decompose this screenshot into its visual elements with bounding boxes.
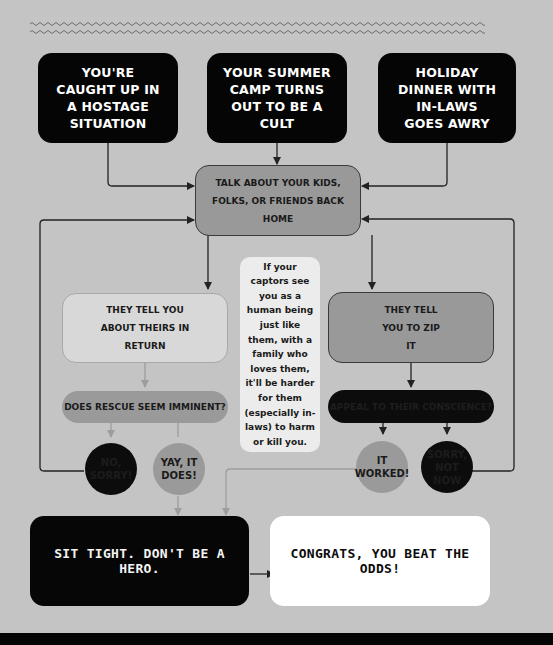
zip-it-label: THEY TELL YOU TO ZIP IT (329, 301, 493, 355)
zip-it-box: THEY TELL YOU TO ZIP IT (328, 292, 494, 363)
tip-note: If your captors see you as a human being… (240, 257, 320, 452)
start-cult-label: YOUR SUMMER CAMP TURNS OUT TO BE A CULT (207, 64, 347, 132)
wavy-divider (30, 20, 485, 36)
appeal-conscience-pill: APPEAL TO THEIR CONSCIENCE? (328, 390, 494, 423)
no-sorry-label: NO, SORRY! (84, 456, 138, 482)
sit-tight-label: SIT TIGHT. DON'T BE A HERO. (30, 546, 249, 576)
talk-about-family-box: TALK ABOUT YOUR KIDS, FOLKS, OR FRIENDS … (195, 165, 361, 236)
they-tell-theirs-label: THEY TELL YOU ABOUT THEIRS IN RETURN (63, 301, 227, 355)
they-tell-theirs-box: THEY TELL YOU ABOUT THEIRS IN RETURN (62, 293, 228, 363)
sorry-not-now-label: SORRY, NOT NOW (421, 448, 473, 487)
congrats-box: CONGRATS, YOU BEAT THE ODDS! (270, 516, 490, 606)
congrats-label: CONGRATS, YOU BEAT THE ODDS! (270, 546, 490, 576)
tip-note-text: If your captors see you as a human being… (244, 260, 316, 450)
start-hostage-box: YOU'RE CAUGHT UP IN A HOSTAGE SITUATION (38, 53, 178, 143)
it-worked-circle: IT WORKED! (356, 441, 408, 493)
no-sorry-circle: NO, SORRY! (85, 443, 137, 495)
appeal-conscience-label: APPEAL TO THEIR CONSCIENCE? (330, 402, 492, 412)
footer-bar (0, 633, 553, 645)
it-worked-label: IT WORKED! (351, 454, 414, 480)
start-inlaws-label: HOLIDAY DINNER WITH IN-LAWS GOES AWRY (378, 64, 516, 132)
sit-tight-box: SIT TIGHT. DON'T BE A HERO. (30, 516, 249, 606)
start-inlaws-box: HOLIDAY DINNER WITH IN-LAWS GOES AWRY (378, 53, 516, 143)
yay-it-does-label: YAY, IT DOES! (153, 456, 205, 482)
start-hostage-label: YOU'RE CAUGHT UP IN A HOSTAGE SITUATION (38, 64, 178, 132)
yay-it-does-circle: YAY, IT DOES! (153, 443, 205, 495)
sorry-not-now-circle: SORRY, NOT NOW (421, 441, 473, 493)
rescue-question-pill: DOES RESCUE SEEM IMMINENT? (62, 391, 228, 423)
talk-about-family-label: TALK ABOUT YOUR KIDS, FOLKS, OR FRIENDS … (196, 174, 360, 228)
start-cult-box: YOUR SUMMER CAMP TURNS OUT TO BE A CULT (207, 53, 347, 143)
rescue-question-label: DOES RESCUE SEEM IMMINENT? (64, 402, 226, 412)
